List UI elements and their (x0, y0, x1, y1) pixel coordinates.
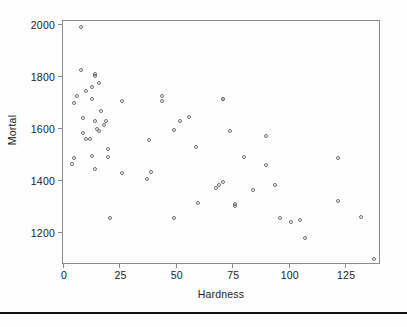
scatter-point (81, 116, 85, 120)
x-axis-tick: 25 (119, 263, 120, 268)
plot-area: 120014001600180020000255075100125 (62, 20, 380, 264)
scatter-point (160, 99, 164, 103)
scatter-point (106, 155, 110, 159)
scatter-point (221, 97, 225, 101)
y-axis-label: Mortal (6, 115, 18, 145)
scatter-point (108, 216, 112, 220)
scatter-point (72, 101, 76, 105)
scatter-point (194, 145, 198, 149)
scatter-point (372, 257, 376, 261)
y-axis-tick: 2000 (58, 24, 63, 25)
scatter-point (75, 94, 79, 98)
scatter-point (221, 180, 225, 184)
scatter-point (102, 123, 106, 127)
scatter-point (79, 68, 83, 72)
scatter-point (278, 216, 282, 220)
scatter-point (172, 128, 176, 132)
scatter-point (289, 220, 293, 224)
scatter-point (70, 162, 74, 166)
scatter-point (88, 137, 92, 141)
scatter-point (84, 89, 88, 93)
x-axis-tick: 100 (289, 263, 290, 268)
scatter-point (93, 119, 97, 123)
scatter-point (120, 171, 124, 175)
y-axis-tick: 1600 (58, 128, 63, 129)
scatter-point (242, 155, 246, 159)
scatter-point (90, 97, 94, 101)
scatter-point (147, 138, 151, 142)
y-axis-tick-label: 1400 (31, 175, 55, 187)
scatter-point (298, 218, 302, 222)
bottom-divider (0, 312, 407, 314)
scatter-point (90, 154, 94, 158)
scatter-point (336, 156, 340, 160)
x-axis-tick: 50 (176, 263, 177, 268)
scatter-point (303, 236, 307, 240)
scatter-point (359, 215, 363, 219)
y-axis-tick: 1400 (58, 180, 63, 181)
x-axis-tick: 125 (345, 263, 346, 268)
scatter-point (264, 163, 268, 167)
y-axis-tick: 1200 (58, 232, 63, 233)
scatter-point (264, 134, 268, 138)
y-axis-tick-label: 1800 (31, 71, 55, 83)
x-axis-tick: 0 (63, 263, 64, 268)
x-axis-label: Hardness (62, 288, 380, 300)
scatter-point (79, 25, 83, 29)
y-axis-tick: 1800 (58, 76, 63, 77)
x-axis-tick-label: 25 (114, 269, 126, 281)
scatter-point (72, 156, 76, 160)
scatter-point (145, 177, 149, 181)
scatter-point (187, 115, 191, 119)
y-axis-tick-label: 2000 (31, 19, 55, 31)
scatter-point (251, 188, 255, 192)
scatter-point (97, 81, 101, 85)
scatter-point (160, 94, 164, 98)
x-axis-tick-label: 0 (61, 269, 67, 281)
scatter-point (99, 109, 103, 113)
scatter-point (336, 199, 340, 203)
scatter-point (81, 131, 85, 135)
y-axis-tick-label: 1200 (31, 227, 55, 239)
y-axis-tick-label: 1600 (31, 123, 55, 135)
scatter-point (273, 183, 277, 187)
scatter-point (120, 99, 124, 103)
scatter-point (196, 201, 200, 205)
x-axis-tick-label: 125 (337, 269, 355, 281)
scatter-point (93, 167, 97, 171)
scatter-point (233, 204, 237, 208)
scatter-point (84, 137, 88, 141)
scatter-point (172, 216, 176, 220)
scatter-point (214, 186, 218, 190)
scatter-point (228, 129, 232, 133)
x-axis-tick-label: 50 (171, 269, 183, 281)
scatter-data-layer (63, 21, 379, 263)
scatter-point (106, 147, 110, 151)
scatter-point (90, 85, 94, 89)
scatter-point (93, 74, 97, 78)
scatter-point (178, 119, 182, 123)
x-axis-tick: 75 (232, 263, 233, 268)
scatter-point (149, 170, 153, 174)
x-axis-tick-label: 100 (281, 269, 299, 281)
x-axis-tick-label: 75 (227, 269, 239, 281)
scatter-point (97, 129, 101, 133)
chart-screen: 120014001600180020000255075100125 Hardne… (0, 0, 407, 327)
